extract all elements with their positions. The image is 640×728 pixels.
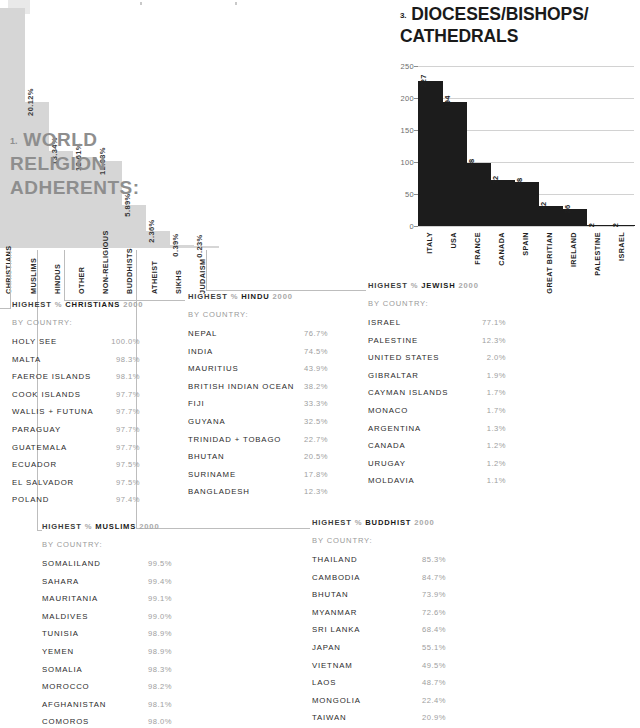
table-row: VIETNAM49.5%	[312, 661, 446, 670]
table-jewish: HIGHEST % JEWISH 2000BY COUNTRY:ISRAEL77…	[368, 281, 506, 494]
table-row: CAMBODIA84.7%	[312, 573, 446, 582]
step-chart-title-line3: ADHERENTS:	[10, 177, 140, 198]
table-row-country: POLAND	[12, 495, 49, 504]
table-row-value: 20.5%	[304, 452, 328, 461]
table-row-value: 98.3%	[148, 665, 172, 674]
table-row-value: 84.7%	[422, 573, 446, 582]
bar-chart-y-dash	[414, 66, 418, 67]
step-chart-title-line1: WORLD	[23, 129, 97, 150]
table-header-year: 2000	[414, 518, 434, 527]
table-row: TUNISIA98.9%	[42, 629, 172, 638]
table-row-country: LAOS	[312, 678, 336, 687]
table-row-country: BRITISH INDIAN OCEAN	[188, 382, 294, 391]
table-row-country: COMOROS	[42, 717, 89, 726]
table-row: SRI LANKA68.4%	[312, 625, 446, 634]
table-row-value: 2.0%	[487, 353, 506, 362]
table-row-value: 97.5%	[116, 460, 140, 469]
table-row-country: INDIA	[188, 347, 213, 356]
table-row: ECUADOR97.5%	[12, 460, 140, 469]
step-axis-label-sikhs: SIKHS	[174, 248, 183, 294]
bar-axis-label-italy: ITALY	[425, 232, 434, 254]
bar-value-label: 227	[421, 74, 430, 87]
table-row: GUATEMALA97.7%	[12, 443, 140, 452]
table-row-value: 99.1%	[148, 594, 172, 603]
table-row-country: MOLDAVIA	[368, 476, 415, 485]
table-row-value: 73.9%	[422, 590, 446, 599]
table-row-country: AFGHANISTAN	[42, 700, 106, 709]
table-header-religion: JEWISH	[421, 281, 455, 290]
table-row-country: SURINAME	[188, 470, 236, 479]
table-row-country: ECUADOR	[12, 460, 57, 469]
table-row-value: 76.7%	[304, 329, 328, 338]
table-row-country: JAPAN	[312, 643, 341, 652]
table-row-value: 1.2%	[487, 441, 506, 450]
table-row: MOROCCO98.2%	[42, 682, 172, 691]
table-row-value: 97.7%	[116, 407, 140, 416]
table-row-value: 17.8%	[304, 470, 328, 479]
table-row: SOMALIA98.3%	[42, 665, 172, 674]
table-row-value: 33.3%	[304, 399, 328, 408]
table-row-country: COOK ISLANDS	[12, 390, 81, 399]
table-row-value: 1.3%	[487, 424, 506, 433]
table-row: UNITED STATES2.0%	[368, 353, 506, 362]
bar-chart-y-dash	[414, 226, 418, 227]
table-row: PARAGUAY97.7%	[12, 425, 140, 434]
table-row-country: TRINIDAD + TOBAGO	[188, 435, 281, 444]
step-chart-title: 1. WORLD RELIGION ADHERENTS:	[10, 128, 200, 200]
table-header-year: 2000	[123, 300, 143, 309]
table-row-country: TUNISIA	[42, 629, 79, 638]
table-row: HOLY SEE100.0%	[12, 337, 140, 346]
step-chart-number: 1.	[10, 136, 18, 146]
table-row: POLAND97.4%	[12, 495, 140, 504]
table-row-country: TAIWAN	[312, 713, 347, 722]
table-header-year: 2000	[458, 281, 478, 290]
table-row: AFGHANISTAN98.1%	[42, 700, 172, 709]
table-subheader-christians: BY COUNTRY:	[12, 318, 140, 327]
table-row-value: 22.7%	[304, 435, 328, 444]
table-row-value: 68.4%	[422, 625, 446, 634]
table-row-value: 32.5%	[304, 417, 328, 426]
table-subheader-hindu: BY COUNTRY:	[188, 310, 328, 319]
bar-chart-title: 3. DIOCESES/BISHOPS/ CATHEDRALS	[400, 4, 640, 47]
bar-chart-title-line1: DIOCESES/BISHOPS/	[411, 4, 588, 24]
table-row-country: MOROCCO	[42, 682, 90, 691]
table-row-value: 12.3%	[304, 487, 328, 496]
table-row: PALESTINE12.3%	[368, 336, 506, 345]
table-row-value: 1.2%	[487, 459, 506, 468]
table-header-percent-sign: %	[411, 281, 419, 290]
table-row: SURINAME17.8%	[188, 470, 328, 479]
table-row-value: 1.7%	[487, 388, 506, 397]
table-row-value: 43.9%	[304, 364, 328, 373]
table-row-value: 98.9%	[148, 647, 172, 656]
table-row-value: 100.0%	[111, 337, 140, 346]
connector-judaism-vertical	[206, 250, 207, 290]
bar-great-britian: 32	[538, 206, 563, 226]
table-header-prefix: HIGHEST	[312, 518, 352, 527]
table-row-country: NEPAL	[188, 329, 217, 338]
table-row-country: ISRAEL	[368, 318, 401, 327]
table-row: URUGAY1.2%	[368, 459, 506, 468]
table-row-country: BHUTAN	[312, 590, 349, 599]
table-muslims: HIGHEST % MUSLIMS 2000BY COUNTRY:SOMALIL…	[42, 522, 172, 728]
bar-chart-y-tick: 250	[401, 62, 414, 71]
table-row-country: PALESTINE	[368, 336, 418, 345]
table-row: MONACO1.7%	[368, 406, 506, 415]
table-row-country: MONACO	[368, 406, 408, 415]
table-row-value: 98.1%	[116, 372, 140, 381]
table-row-value: 97.5%	[116, 478, 140, 487]
table-row-country: BANGLADESH	[188, 487, 250, 496]
table-row-country: GUYANA	[188, 417, 225, 426]
table-row: WALLIS + FUTUNA97.7%	[12, 407, 140, 416]
table-row-country: SOMALILAND	[42, 559, 101, 568]
table-row-country: MALTA	[12, 355, 41, 364]
table-row-value: 99.5%	[148, 559, 172, 568]
table-header-percent-sign: %	[55, 300, 63, 309]
table-row-value: 38.2%	[304, 382, 328, 391]
bar-palestine: 2	[586, 225, 611, 227]
table-row-country: CAYMAN ISLANDS	[368, 388, 448, 397]
table-row: YEMEN98.9%	[42, 647, 172, 656]
bar-value-label: 98	[469, 159, 478, 168]
step-axis-label-christians: CHRISTIANS	[4, 248, 13, 294]
step-bar-atheist: 2.36%	[145, 231, 170, 248]
